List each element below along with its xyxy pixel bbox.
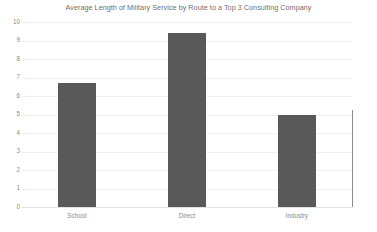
x-axis-label-direct: Direct [132,212,242,219]
y-axis-tick-label: 10 [6,19,20,25]
right-axis-line [352,110,353,207]
plot-area [22,22,352,207]
y-axis-tick-label: 0 [6,204,20,210]
bar-chart: Average Length of Military Service by Ro… [0,0,377,232]
bar-industry[interactable] [278,115,316,208]
y-axis-tick-label: 7 [6,74,20,80]
y-axis-tick-label: 2 [6,167,20,173]
x-axis-label-industry: Industry [242,212,352,219]
chart-title: Average Length of Military Service by Ro… [0,3,377,12]
gridline [22,22,352,23]
gridline [22,207,352,208]
y-axis-tick-label: 9 [6,37,20,43]
x-axis-label-school: School [22,212,132,219]
y-axis-tick-label: 6 [6,93,20,99]
y-axis-tick-label: 5 [6,111,20,117]
y-axis-tick-label: 3 [6,148,20,154]
y-axis-tick-label: 1 [6,185,20,191]
bar-direct[interactable] [168,33,206,207]
y-axis-tick-label: 8 [6,56,20,62]
bar-school[interactable] [58,83,96,207]
y-axis-tick-label: 4 [6,130,20,136]
